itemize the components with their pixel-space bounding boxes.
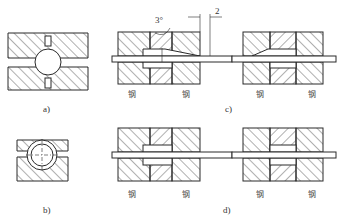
material-label: 钢: [182, 188, 190, 199]
material-label: 钢: [308, 88, 316, 99]
technical-diagram: [0, 0, 343, 222]
material-label: 钢: [308, 188, 316, 199]
panel-c-label: c): [225, 104, 232, 114]
panel-d-left-die: [112, 128, 232, 181]
panel-a-drawing: [8, 33, 88, 90]
material-label: 钢: [128, 188, 136, 199]
panel-b-drawing: [17, 139, 68, 181]
material-label: 钢: [128, 88, 136, 99]
panel-c-right-die: [232, 32, 336, 84]
material-label: 钢: [256, 188, 264, 199]
panel-d-right-die: [232, 128, 336, 181]
panel-d-label: d): [223, 205, 231, 215]
panel-a-label: a): [43, 104, 50, 114]
material-label: 钢: [256, 88, 264, 99]
dimension-annotation: 2: [215, 6, 220, 16]
panel-c-left-die: [112, 14, 232, 84]
material-label: 钢: [182, 88, 190, 99]
angle-annotation: 3°: [155, 15, 163, 25]
panel-b-label: b): [43, 205, 51, 215]
